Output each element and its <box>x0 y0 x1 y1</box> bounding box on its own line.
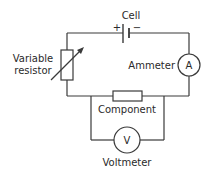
component-symbol <box>113 91 142 101</box>
ammeter-label: Ammeter <box>128 60 176 71</box>
cell-label: Cell <box>122 10 141 21</box>
voltmeter-label: Voltmeter <box>103 157 153 168</box>
circuit-wires <box>67 33 189 140</box>
ammeter-symbol-letter: A <box>186 60 193 71</box>
cell-minus-label: − <box>133 22 141 33</box>
component-label: Component <box>98 104 156 115</box>
variable-resistor-symbol <box>51 47 84 80</box>
variable-resistor-label-line1: Variable <box>13 53 54 64</box>
cell-symbol <box>123 24 129 43</box>
cell-plus-label: + <box>113 22 121 33</box>
variable-resistor-label-line2: resistor <box>14 65 52 76</box>
circuit-diagram: Cell + − Variable resistor A Ammeter Com… <box>0 0 212 177</box>
voltmeter-symbol-letter: V <box>124 135 131 146</box>
